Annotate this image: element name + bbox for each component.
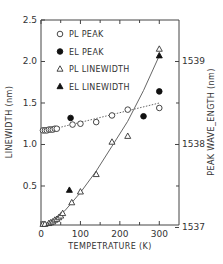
pl-linewidth-point (125, 133, 131, 138)
legend-marker-el-linewidth (57, 83, 63, 88)
pl-linewidth-point (156, 46, 162, 51)
y-tick-label: 2.0 (23, 56, 38, 66)
legend-label: PL LINEWIDTH (69, 65, 130, 74)
legend: PL PEAKEL PEAKPL LINEWIDTHEL LINEWIDTH (57, 30, 130, 92)
legend-label: PL PEAK (69, 30, 104, 39)
el-peak-point (141, 113, 147, 119)
y-tick-label: 1.0 (23, 139, 38, 149)
x-tick-label: 0 (38, 229, 44, 239)
y2-axis-title: PEAK WAVE_ENGTH (nm) (207, 68, 216, 176)
pl-peak-point (93, 119, 99, 125)
pl-linewidth-point (109, 139, 115, 144)
y2-tick-label: 1538 (182, 139, 205, 149)
pl-peak-point (70, 122, 76, 128)
pl-peak-point (125, 107, 131, 113)
y-tick-label: 0.5 (23, 181, 37, 191)
linewidth-fit-curve (43, 56, 159, 225)
fit-lines (41, 56, 159, 225)
pl-peak-point (54, 126, 60, 132)
y-tick-label: 1.5 (23, 98, 37, 108)
legend-label: EL PEAK (69, 48, 104, 57)
y2-tick-label: 1539 (182, 56, 205, 66)
x-axis-title: TEMPETRATURE (K) (67, 242, 151, 251)
y-axis-title: LINEWIDTH (nm) (5, 86, 14, 158)
pl-peak-point (156, 105, 162, 111)
pl-peak-point (78, 121, 84, 127)
legend-marker-el-peak (57, 49, 63, 55)
legend-marker-pl-peak (57, 31, 63, 37)
y2-tick-label: 1537 (182, 222, 205, 232)
chart: 01002003000.51.01.52.02.5153715381539 PL… (0, 0, 223, 264)
el-linewidth-point (66, 187, 72, 192)
x-tick-label: 300 (151, 229, 168, 239)
pl-peak-point (109, 113, 115, 119)
x-tick-label: 100 (72, 229, 89, 239)
el-peak-point (68, 115, 74, 121)
legend-marker-pl-linewidth (57, 66, 63, 71)
el-linewidth-point (156, 52, 162, 57)
x-tick-label: 200 (111, 229, 128, 239)
el-peak-point (156, 89, 162, 95)
y-tick-label: 2.5 (23, 15, 37, 25)
legend-label: EL LINEWIDTH (69, 83, 130, 92)
